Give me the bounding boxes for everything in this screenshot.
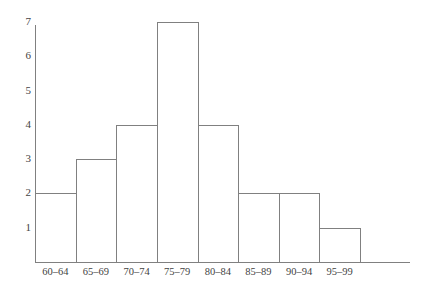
y-tick-label: 4 [9,119,31,130]
x-tick-label: 85–89 [238,266,279,278]
y-tick-label: 3 [9,153,31,164]
histogram-bar [279,193,321,262]
histogram-chart: 1234567 60–6465–6970–7475–7980–8485–8990… [0,0,427,304]
histogram-bar [157,22,199,262]
plot-area: 1234567 60–6465–6970–7475–7980–8485–8990… [0,0,427,304]
y-tick-label: 1 [9,222,31,233]
x-tick-label: 70–74 [116,266,157,278]
y-tick-label: 7 [9,16,31,27]
histogram-bar [76,159,118,262]
x-tick-label: 75–79 [157,266,198,278]
x-axis-line [35,262,410,263]
x-tick-label: 65–69 [76,266,117,278]
histogram-bar [35,193,77,262]
y-tick-label: 6 [9,50,31,61]
x-tick-label: 90–94 [279,266,320,278]
x-tick-label: 95–99 [319,266,360,278]
y-tick-label: 2 [9,187,31,198]
histogram-bar [319,228,361,262]
histogram-bar [198,125,240,262]
histogram-bar [238,193,280,262]
x-tick-label: 60–64 [35,266,76,278]
y-tick-label: 5 [9,85,31,96]
histogram-bar [116,125,158,262]
y-axis-tick-labels: 1234567 [0,0,31,304]
x-tick-label: 80–84 [198,266,239,278]
